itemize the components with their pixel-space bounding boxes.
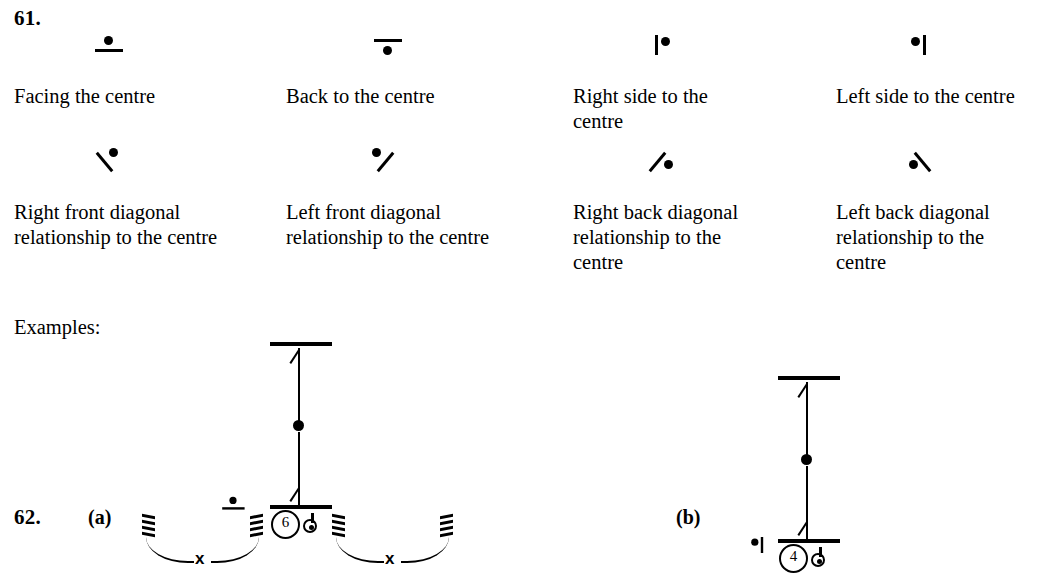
right-front-diagonal-symbol [85,145,131,179]
symbol-dot [909,160,918,169]
comb-marks-right [440,514,453,538]
contact-x-mark: x [195,549,204,569]
example-a-orientation-symbol [215,492,239,510]
top-wall-bar [778,376,840,380]
symbol-bar [761,537,763,553]
travel-line-lower [806,466,808,540]
symbol-dot [372,148,381,157]
symbol-bar [222,507,244,509]
example-b-part-label: (b) [676,506,700,529]
dancer-number-badge: 4 [779,544,808,573]
bottom-wall-bar [270,505,332,509]
symbol-dot [751,539,758,546]
right-back-diagonal-symbol [640,147,686,181]
symbol-dot [911,37,920,46]
top-wall-bar [270,342,332,346]
caption-right-back-diagonal: Right back diagonal relationship to the … [573,200,763,275]
centre-dot [801,454,812,465]
example-b-diagram: 4 [770,370,890,550]
left-front-diagonal-symbol [360,145,406,179]
symbol-bar [95,49,123,52]
symbol-bar [374,39,402,42]
caption-right-side-to-the-centre: Right side to the centre [573,84,763,134]
section-number-62: 62. [14,505,41,530]
bottom-wall-bar [778,539,840,543]
travel-line-upper [298,348,300,426]
symbol-dot [661,37,670,46]
hook-group-right: x [330,521,455,573]
hook-group-left: x [140,521,265,573]
caption-left-front-diagonal: Left front diagonal relationship to the … [286,200,501,250]
symbol-dot [229,497,236,504]
comb-marks-left [332,514,345,538]
travel-line-upper [806,382,808,460]
pin-core [309,525,314,530]
examples-label: Examples: [14,316,101,339]
dancer-pin-icon [811,547,831,567]
contact-x-mark: x [385,549,394,569]
symbol-dot [664,160,673,169]
caption-left-back-diagonal: Left back diagonal relationship to the c… [836,200,1036,275]
left-back-diagonal-symbol [895,147,941,181]
right-side-to-centre-symbol [641,30,687,64]
left-side-to-centre-symbol [897,30,943,64]
example-a-part-label: (a) [88,506,111,529]
example-a-diagram: 6 [262,336,382,516]
pin-core [817,559,822,564]
comb-marks-left [142,514,155,538]
caption-facing-the-centre: Facing the centre [14,84,254,109]
symbol-dot [383,46,392,55]
caption-left-side-to-the-centre: Left side to the centre [836,84,1026,109]
caption-right-front-diagonal: Right front diagonal relationship to the… [14,200,224,250]
comb-marks-right [250,514,263,538]
back-to-centre-symbol [365,33,411,67]
symbol-dot [109,148,118,157]
travel-line-lower [298,432,300,506]
symbol-bar [923,35,926,55]
notation-page: 61. Facing the centre Back to the centre… [0,0,1042,575]
symbol-dot [104,36,113,45]
section-number-61: 61. [14,6,41,31]
dancer-number-badge: 6 [271,510,300,539]
centre-dot [293,420,304,431]
symbol-bar [655,35,658,55]
dancer-pin-icon [303,513,323,533]
facing-centre-symbol [86,30,132,64]
example-b-orientation-symbol [740,533,764,551]
caption-back-to-the-centre: Back to the centre [286,84,526,109]
